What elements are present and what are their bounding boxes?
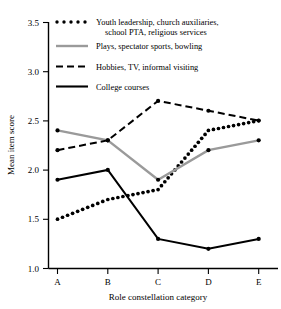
data-point (71, 211, 75, 215)
data-point (131, 193, 135, 197)
data-point (206, 148, 210, 152)
data-point (81, 207, 85, 211)
data-point (156, 237, 160, 241)
data-point (206, 247, 210, 251)
data-point (196, 140, 200, 144)
data-point (203, 133, 207, 137)
data-point (111, 197, 115, 201)
dotted-swatch (55, 20, 86, 23)
data-point (96, 202, 100, 206)
data-point (206, 109, 210, 113)
x-tick-label-d: D (205, 277, 212, 287)
y-tick-label-3-0: 3.0 (28, 67, 40, 77)
data-point (55, 148, 59, 152)
data-point (86, 206, 90, 210)
legend-swatches (55, 20, 88, 86)
x-axis-title: Role constellation category (109, 292, 208, 302)
data-point (106, 138, 110, 142)
data-point (190, 148, 194, 152)
series-dotted (56, 119, 261, 221)
data-point (257, 138, 261, 142)
data-point (66, 213, 70, 217)
data-point (76, 209, 80, 213)
legend-label-college-courses: College courses (96, 83, 149, 92)
line-chart: 3.5 3.0 2.5 2.0 1.5 1.0 A B C D E Role c… (0, 0, 281, 309)
y-tick-label-2-5: 2.5 (28, 116, 40, 126)
data-point (180, 160, 184, 164)
x-tick-label-c: C (155, 277, 161, 287)
series-layer (55, 99, 260, 251)
data-point (56, 217, 60, 221)
data-point (121, 195, 125, 199)
x-tick-label-a: A (54, 277, 61, 287)
y-tick-label-1-5: 1.5 (28, 214, 40, 224)
data-point (217, 127, 221, 131)
data-point (91, 204, 95, 208)
x-tick-label-e: E (256, 277, 262, 287)
data-point (156, 188, 160, 192)
data-point (160, 184, 164, 188)
data-point (156, 178, 160, 182)
series-line (58, 130, 259, 179)
data-point (237, 123, 241, 127)
chart-container: 3.5 3.0 2.5 2.0 1.5 1.0 A B C D E Role c… (0, 0, 281, 309)
data-point (257, 119, 261, 123)
data-point (232, 124, 236, 128)
data-point (183, 156, 187, 160)
data-point (242, 122, 246, 126)
data-point (163, 180, 167, 184)
data-point (106, 168, 110, 172)
data-point (116, 196, 120, 200)
y-axis-ticks (43, 23, 49, 269)
data-point (101, 200, 105, 204)
y-axis-title: Mean item score (6, 115, 16, 175)
legend-label-youth-leadership-line1: Youth leadership, church auxiliaries, (96, 18, 219, 27)
data-point (193, 144, 197, 148)
data-point (207, 129, 211, 133)
data-point (257, 237, 261, 241)
data-point (200, 137, 204, 141)
data-point (136, 192, 140, 196)
legend-label-hobbies-tv: Hobbies, TV, informal visiting (96, 63, 199, 72)
data-point (61, 215, 65, 219)
legend-label-youth-leadership-line2: school PTA, religious services (105, 28, 207, 37)
y-tick-label-3-5: 3.5 (28, 18, 40, 28)
data-point (166, 176, 170, 180)
x-axis-ticks (58, 269, 259, 275)
y-tick-label-1-0: 1.0 (28, 264, 40, 274)
data-point (151, 189, 155, 193)
data-point (146, 190, 150, 194)
x-tick-label-b: B (105, 277, 111, 287)
legend-label-plays-spectator-sports: Plays, spectator sports, bowling (96, 42, 203, 51)
data-point (247, 121, 251, 125)
data-point (227, 125, 231, 129)
data-point (55, 128, 59, 132)
data-point (222, 126, 226, 130)
data-point (141, 191, 145, 195)
data-point (106, 198, 110, 202)
y-tick-label-2-0: 2.0 (28, 165, 40, 175)
data-point (156, 99, 160, 103)
data-point (186, 152, 190, 156)
data-point (55, 178, 59, 182)
data-point (212, 128, 216, 132)
